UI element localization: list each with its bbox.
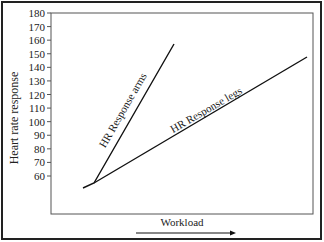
- chart-svg: 18017016015014013012011010090807060 Hear…: [0, 0, 324, 242]
- y-tick-label: 130: [29, 75, 46, 87]
- outer-frame: [2, 2, 321, 239]
- y-tick-label: 150: [29, 48, 46, 60]
- y-tick-label: 70: [34, 156, 46, 168]
- y-tick-label: 90: [34, 129, 46, 141]
- y-tick-label: 140: [29, 61, 46, 73]
- y-tick-label: 180: [29, 7, 46, 19]
- y-tick-label: 60: [34, 170, 46, 182]
- y-tick-label: 110: [29, 102, 46, 114]
- y-tick-label: 120: [29, 89, 46, 101]
- y-tick-label: 160: [29, 34, 46, 46]
- y-tick-label: 80: [34, 143, 46, 155]
- x-axis-label: Workload: [160, 216, 204, 228]
- y-tick-label: 100: [29, 116, 46, 128]
- y-tick-label: 170: [29, 21, 46, 33]
- y-axis-label: Heart rate response: [7, 72, 21, 165]
- chart-figure: 18017016015014013012011010090807060 Hear…: [0, 0, 324, 242]
